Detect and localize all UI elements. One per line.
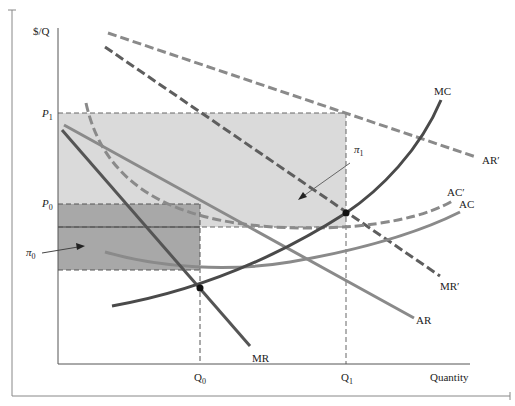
ac-prime-label: AC′ [447,186,465,198]
mr-prime-label: MR′ [440,280,460,292]
mc-label: MC [434,85,451,97]
ar-prime-label: AR′ [482,154,500,166]
pi0-label: π0 [26,246,36,261]
mr-label: MR [252,352,270,364]
ac-label: AC [459,198,474,210]
pi1-label: π1 [354,143,364,158]
ar-label: AR [416,314,432,326]
p0-label: P0 [41,197,53,212]
p1-label: P1 [41,107,53,122]
y-axis-label: $/Q [33,25,50,37]
equilibrium-point-q0 [197,285,204,292]
monopoly-diagram: $/Q Quantity P1 P0 Q0 Q1 π0 π1 MC AC AR … [0,0,515,406]
q1-label: Q1 [341,371,353,386]
x-axis-label: Quantity [430,371,469,383]
profit-region-pi0 [58,204,200,270]
q0-label: Q0 [194,371,206,386]
equilibrium-point-q1 [343,210,350,217]
